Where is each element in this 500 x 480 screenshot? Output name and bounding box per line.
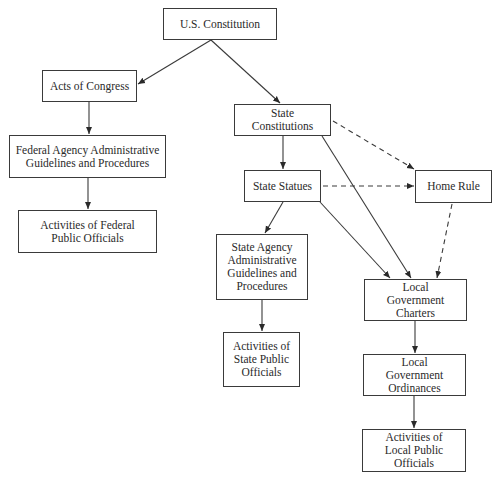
node-label: Activities of Local Public Officials bbox=[371, 431, 457, 470]
node-label: Activities of Federal Public Officials bbox=[31, 219, 144, 245]
node-state-constitutions: State Constitutions bbox=[234, 104, 331, 136]
node-label: Home Rule bbox=[427, 180, 480, 193]
edge-statues-to-local-charters bbox=[320, 202, 390, 278]
edge-home-rule-to-local-charters bbox=[437, 204, 452, 278]
node-label: Local Government Ordinances bbox=[372, 356, 457, 395]
edge-state-const-to-local-charters bbox=[322, 136, 411, 278]
node-local-government-charters: Local Government Charters bbox=[364, 279, 467, 321]
node-state-public-officials: Activities of State Public Officials bbox=[223, 332, 300, 387]
node-state-agency-guidelines: State Agency Administrative Guidelines a… bbox=[216, 234, 308, 300]
node-label: Federal Agency Administrative Guidelines… bbox=[14, 144, 161, 170]
node-federal-agency-guidelines: Federal Agency Administrative Guidelines… bbox=[9, 135, 166, 178]
edge-state-const-to-home-rule bbox=[333, 121, 414, 169]
edge-statues-to-state-agency bbox=[265, 202, 283, 233]
node-label: Acts of Congress bbox=[50, 80, 129, 93]
node-local-government-ordinances: Local Government Ordinances bbox=[363, 354, 466, 396]
node-label: Activities of State Public Officials bbox=[230, 340, 293, 379]
node-local-public-officials: Activities of Local Public Officials bbox=[362, 429, 466, 472]
node-federal-public-officials: Activities of Federal Public Officials bbox=[18, 210, 157, 253]
edge-us-to-acts bbox=[138, 40, 211, 84]
node-label: State Agency Administrative Guidelines a… bbox=[225, 241, 299, 293]
node-state-statues: State Statues bbox=[244, 170, 321, 202]
edge-us-to-state-constitutions bbox=[211, 40, 280, 103]
node-label: State Constitutions bbox=[239, 107, 326, 133]
node-home-rule: Home Rule bbox=[415, 170, 492, 203]
node-us-constitution: U.S. Constitution bbox=[163, 8, 277, 40]
node-label: Local Government Charters bbox=[373, 281, 458, 320]
node-label: State Statues bbox=[253, 180, 312, 193]
node-label: U.S. Constitution bbox=[180, 18, 260, 31]
node-acts-of-congress: Acts of Congress bbox=[42, 70, 137, 102]
